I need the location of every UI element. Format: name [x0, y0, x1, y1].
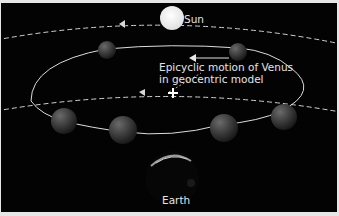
- caption-line-2: in geocentric model: [159, 73, 264, 85]
- venus-1: [98, 41, 116, 59]
- sun-label: Sun: [184, 13, 204, 25]
- diagram-frame: Sun Epicyclic motion of Venus in geocent…: [0, 0, 339, 216]
- geocentric-diagram: [1, 3, 337, 212]
- venus-6: [271, 104, 297, 130]
- earth-label: Earth: [162, 194, 190, 206]
- caption-line-1: Epicyclic motion of Venus: [159, 61, 293, 73]
- space-background: Sun Epicyclic motion of Venus in geocent…: [1, 3, 337, 212]
- venus-2: [229, 43, 247, 61]
- venus-3: [51, 108, 77, 134]
- epicycle-center-cross-icon: [168, 88, 178, 98]
- venus-4: [109, 116, 137, 144]
- sun-icon: [160, 6, 184, 30]
- sun-orbit-arrow-icon: [119, 20, 125, 28]
- venus-5: [210, 114, 238, 142]
- deferent-orbit-arrow-icon: [139, 89, 145, 96]
